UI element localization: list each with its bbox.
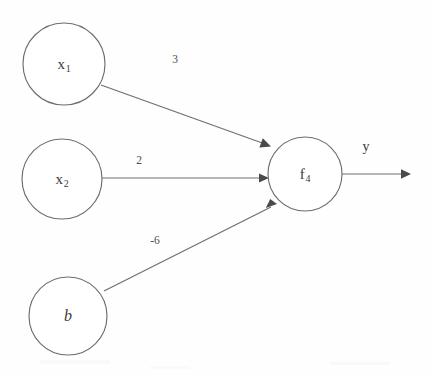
output-label-y: y [363, 139, 370, 155]
diagram-canvas: x1 x2 b f4 3 2 -6 y [0, 0, 430, 378]
edge-x1-to-f4 [101, 85, 265, 144]
node-label-x1: x1 [58, 56, 71, 73]
edge-b-to-f4 [104, 207, 271, 291]
weight-label-x2-to-f4: 2 [136, 154, 142, 166]
arrowhead-b-to-f4 [266, 199, 277, 208]
node-label-b: b [64, 307, 72, 325]
node-label-f4-main: f [300, 166, 305, 182]
node-label-f4-sub: 4 [306, 173, 311, 184]
node-label-x2: x2 [56, 171, 69, 188]
weight-label-b-to-f4: -6 [150, 234, 160, 246]
weight-label-x1-to-f4: 3 [172, 53, 178, 65]
node-label-x2-sub: 2 [64, 178, 69, 189]
arrowhead-x1-to-f4 [259, 138, 271, 147]
node-label-x1-main: x [58, 56, 66, 72]
node-label-b-main: b [64, 307, 72, 324]
node-label-x2-main: x [56, 171, 64, 187]
node-label-x1-sub: 1 [66, 63, 71, 74]
node-label-f4: f4 [300, 166, 310, 183]
arrowhead-f4-output [401, 169, 411, 179]
